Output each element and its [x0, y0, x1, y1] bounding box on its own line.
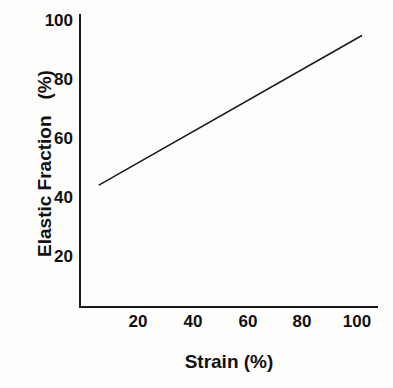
chart-figure: 100 80 60 40 20 20 40 60 80 100 Elastic … [0, 0, 393, 388]
plot-canvas [0, 0, 393, 388]
data-line-elastic-fraction [99, 36, 361, 185]
